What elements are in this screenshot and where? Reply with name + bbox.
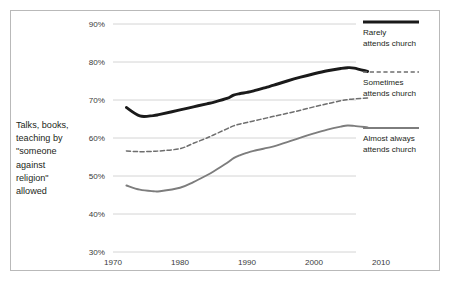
series-line-2 [126,125,367,191]
legend-label-line1: Sometimes [363,78,403,87]
y-axis-title-line: against [16,160,46,170]
x-tick-label: 2000 [305,258,324,267]
chart-legend: Rarelyattends churchSometimesattends chu… [363,22,419,154]
x-tick-label: 1990 [238,258,257,267]
y-axis-title-line: "someone [16,146,57,156]
y-axis-title-line: Talks, books, [16,120,69,130]
series-line-1 [126,98,367,152]
series-line-0 [126,68,367,117]
gridlines-group [113,24,356,252]
y-tick-label: 30% [89,248,105,257]
legend-label-line2: attends church [363,145,416,154]
x-axis-tick-labels: 19701980199020002010 [104,258,391,267]
x-tick-label: 2010 [372,258,391,267]
y-axis-tick-labels: 90%80%70%60%50%40%30% [89,20,105,257]
y-axis-title-line: allowed [16,186,47,196]
legend-label-line2: attends church [363,89,416,98]
legend-label-line2: attends church [363,39,416,48]
legend-label-line1: Rarely [363,28,387,37]
y-tick-label: 60% [89,134,105,143]
data-series-group [126,68,367,192]
line-chart-svg: 90%80%70%60%50%40%30% 197019801990200020… [0,0,452,296]
chart-figure: 90%80%70%60%50%40%30% 197019801990200020… [0,0,452,296]
y-tick-label: 70% [89,96,105,105]
y-axis-title-line: religion" [16,173,49,183]
y-axis-title: Talks, books,teaching by"someoneagainstr… [16,120,69,196]
x-tick-label: 1980 [171,258,190,267]
legend-label-line1: Almost always [363,134,415,143]
y-axis-title-line: teaching by [16,133,63,143]
y-tick-label: 80% [89,58,105,67]
y-tick-label: 40% [89,210,105,219]
y-tick-label: 90% [89,20,105,29]
y-tick-label: 50% [89,172,105,181]
x-tick-label: 1970 [104,258,123,267]
